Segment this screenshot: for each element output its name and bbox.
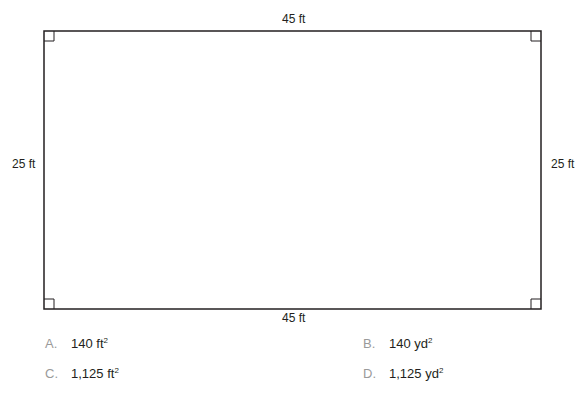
choice-value: 140 yd2: [389, 336, 433, 351]
answer-choice-c[interactable]: C. 1,125 ft2: [45, 366, 119, 381]
choice-letter: B.: [363, 336, 389, 351]
choice-value-text: 140 ft: [71, 336, 104, 351]
left-side-length-label: 25 ft: [12, 157, 35, 171]
right-angle-marker-bottom-right: [531, 299, 541, 309]
choice-letter: D.: [363, 366, 389, 381]
rectangle-outline: [44, 31, 541, 309]
bottom-side-length-label: 45 ft: [282, 311, 305, 325]
choice-value: 1,125 yd2: [389, 366, 443, 381]
choice-letter: A.: [45, 336, 71, 351]
choice-exponent: 2: [439, 366, 443, 375]
right-angle-marker-top-right: [531, 31, 541, 41]
choice-exponent: 2: [104, 336, 108, 345]
top-side-length-label: 45 ft: [282, 12, 305, 26]
answer-choice-b[interactable]: B. 140 yd2: [363, 336, 433, 351]
choice-value: 1,125 ft2: [71, 366, 119, 381]
choice-value-text: 1,125 ft: [71, 366, 114, 381]
answer-choice-a[interactable]: A. 140 ft2: [45, 336, 108, 351]
answer-choice-d[interactable]: D. 1,125 yd2: [363, 366, 443, 381]
choice-exponent: 2: [114, 366, 118, 375]
choice-value-text: 1,125 yd: [389, 366, 439, 381]
right-angle-marker-bottom-left: [44, 299, 54, 309]
right-angle-marker-top-left: [44, 31, 54, 41]
rectangle-figure: [0, 0, 580, 320]
right-side-length-label: 25 ft: [551, 157, 574, 171]
choice-exponent: 2: [428, 336, 432, 345]
choice-value: 140 ft2: [71, 336, 108, 351]
choice-value-text: 140 yd: [389, 336, 428, 351]
choice-letter: C.: [45, 366, 71, 381]
